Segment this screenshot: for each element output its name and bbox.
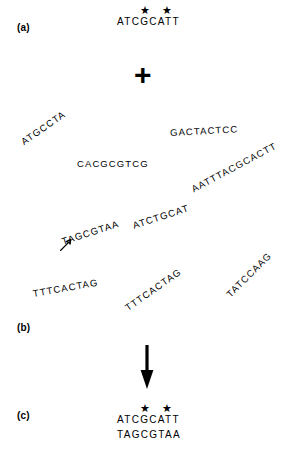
figure-canvas: (a) ★ ★ ATCGCATT + ATGCCTA GACTACTCC CAC… <box>0 0 294 452</box>
scattered-sequence: TATCCAAG <box>224 250 274 300</box>
scattered-sequence: ATCTGCAT <box>131 202 190 231</box>
open-arrow-up-right-icon <box>58 237 74 257</box>
duplex-bottom-strand: TAGCGTAA <box>117 429 181 440</box>
scattered-sequence: CACGCGTCG <box>77 158 149 169</box>
panel-label-c: (c) <box>17 410 30 421</box>
panel-label-b: (b) <box>17 322 30 333</box>
star-marker-a-1: ★ <box>140 5 150 16</box>
plus-icon: + <box>134 60 152 90</box>
scattered-sequence: GACTACTCC <box>170 123 239 138</box>
scattered-sequence: TTTCACTAG <box>123 266 184 313</box>
duplex-top-strand: ATCGCATT <box>117 414 181 425</box>
panel-a-probe-sequence: ATCGCATT <box>117 16 180 27</box>
star-marker-a-2: ★ <box>162 5 172 16</box>
scattered-sequence: ATGCCTA <box>19 108 68 147</box>
scattered-sequence: AATTTACGCACTT <box>189 140 278 194</box>
star-marker-c-2: ★ <box>162 403 172 414</box>
star-marker-c-1: ★ <box>140 403 150 414</box>
panel-label-a: (a) <box>17 22 30 33</box>
down-arrow-icon <box>138 345 156 394</box>
scattered-sequence: TTTCACTAG <box>32 277 99 299</box>
duplex-pair: ATCGCATT TAGCGTAA <box>117 414 181 440</box>
